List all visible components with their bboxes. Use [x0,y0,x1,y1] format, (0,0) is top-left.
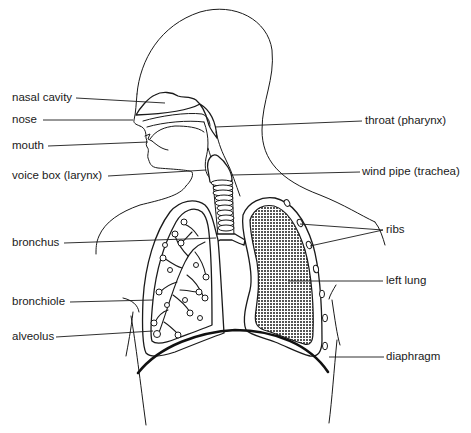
label-wind-pipe: wind pipe (trachea) [362,166,460,178]
label-nasal-cavity: nasal cavity [12,92,72,104]
label-voice-box: voice box (larynx) [12,170,102,182]
label-bronchiole: bronchiole [12,296,65,308]
body-outline [96,9,385,425]
label-diaphragm: diaphragm [386,351,440,363]
label-ribs: ribs [386,224,405,236]
label-mouth: mouth [12,140,44,152]
label-throat: throat (pharynx) [365,115,446,127]
respiratory-diagram [0,0,471,433]
label-alveolus: alveolus [12,331,54,343]
label-left-lung: left lung [386,275,426,287]
label-nose: nose [12,114,37,126]
label-bronchus: bronchus [12,237,59,249]
